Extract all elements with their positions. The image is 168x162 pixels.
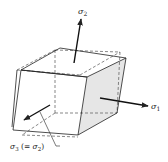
sigma2-arrow [74,19,81,63]
sigma3-arrow [24,105,50,120]
sigma3-label: σ3 (= σ2) [10,142,44,152]
sigma1-label: σ1 [151,102,160,112]
sigma2-label: σ2 [78,7,87,17]
stress-cube-diagram: σ2 σ1 σ3 (= σ2) [0,0,168,162]
sigma3-leader-line [40,112,60,146]
